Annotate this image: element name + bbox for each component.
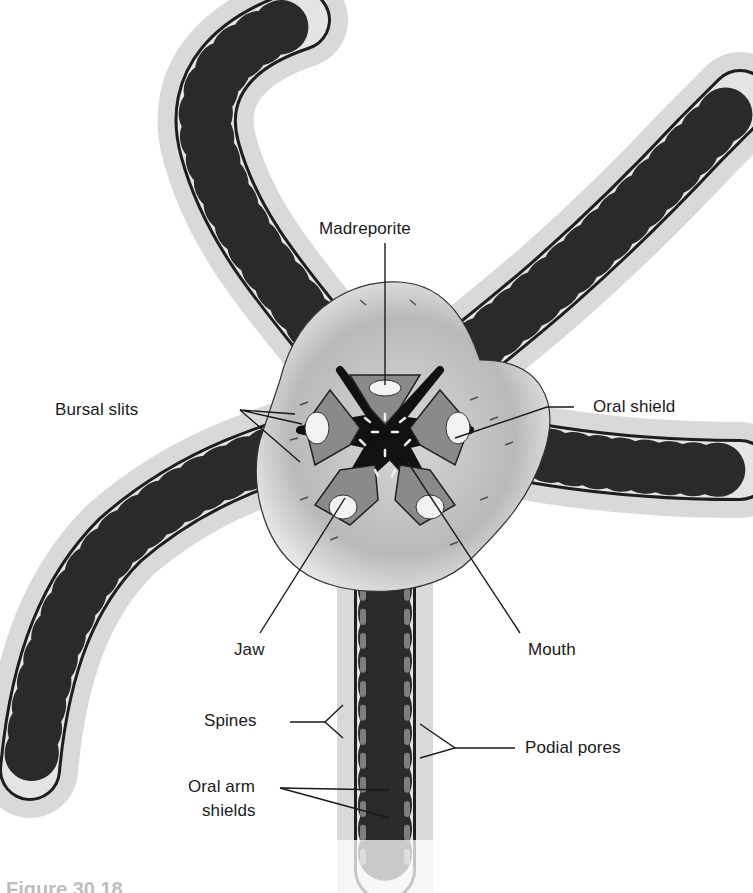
brittle-star-illustration: [0, 0, 753, 893]
label-oral-arm-shields-line1: Oral arm: [188, 777, 255, 797]
figure-caption: Figure 30.18: [6, 878, 123, 893]
label-oral-arm-shields-line2: shields: [202, 801, 256, 821]
label-oral-shield: Oral shield: [593, 397, 675, 417]
label-madreporite: Madreporite: [319, 219, 411, 239]
label-podial-pores: Podial pores: [525, 738, 621, 758]
label-jaw: Jaw: [234, 640, 265, 660]
label-mouth: Mouth: [528, 640, 576, 660]
label-bursal-slits: Bursal slits: [55, 400, 138, 420]
label-spines: Spines: [204, 711, 257, 731]
brittle-star-diagram: Madreporite Bursal slits Oral shield Jaw…: [0, 0, 753, 893]
